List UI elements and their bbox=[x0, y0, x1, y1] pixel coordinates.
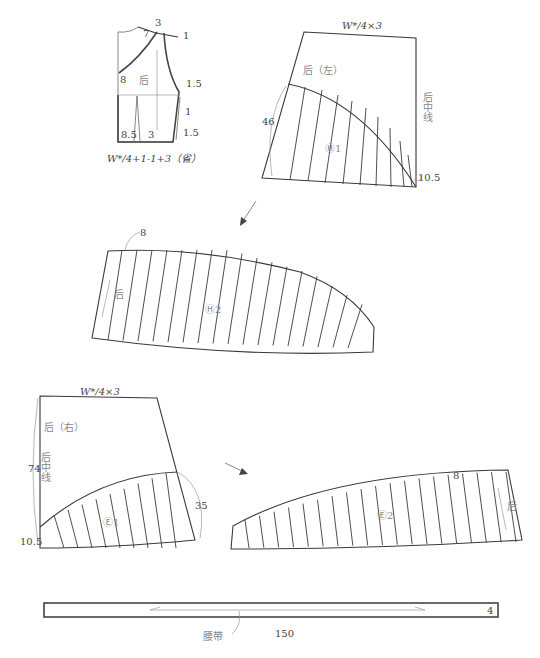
hatch-line bbox=[360, 108, 366, 185]
length-label: 150 bbox=[275, 628, 294, 639]
dim-label: 3 bbox=[155, 17, 161, 28]
hatch-line bbox=[390, 128, 391, 187]
hatch-line bbox=[152, 478, 162, 548]
hatch-line bbox=[448, 475, 457, 543]
hatch-line bbox=[477, 473, 486, 543]
hatch-line bbox=[343, 101, 352, 184]
hatch-line bbox=[138, 484, 148, 549]
arrow-icon bbox=[225, 463, 248, 475]
corner-label: 10.5 bbox=[418, 172, 440, 183]
hatch-line bbox=[153, 250, 167, 342]
top-label: 8 bbox=[140, 227, 146, 238]
hatch-line bbox=[168, 250, 182, 342]
hatch-line bbox=[198, 250, 212, 343]
grain-label: 后 bbox=[507, 501, 517, 512]
hatch-line bbox=[361, 489, 368, 545]
piece-e2: 8 后 Ⓔ2 bbox=[231, 470, 522, 549]
dim-label: 3 bbox=[148, 129, 154, 140]
piece-back-left: W*/4×3 后（左） 后中线 46 10.5 Ⓗ1 bbox=[262, 20, 440, 187]
hatch-line bbox=[166, 473, 176, 548]
formula-label: W*/4+1-1+3（省） bbox=[107, 153, 201, 164]
panel-label: 后 bbox=[139, 75, 149, 86]
waistband: 4 腰带 150 bbox=[44, 603, 498, 642]
hatch-line bbox=[348, 305, 362, 349]
hatch-line bbox=[376, 117, 378, 186]
dim-label: 8.5 bbox=[121, 129, 137, 140]
section-label: Ⓗ2 bbox=[205, 304, 221, 315]
hatch-line bbox=[434, 476, 442, 543]
side-label: 35 bbox=[195, 500, 208, 511]
hatch-line bbox=[289, 508, 294, 547]
top-label: 8 bbox=[453, 470, 459, 481]
hatch-line bbox=[290, 87, 305, 180]
dim-label: 1.5 bbox=[183, 127, 199, 138]
hatch-line bbox=[325, 95, 338, 183]
top-width-label: W*/4×3 bbox=[80, 386, 120, 397]
hatch-line bbox=[82, 505, 92, 549]
hatch-line bbox=[419, 478, 427, 544]
hatch-line bbox=[123, 250, 137, 341]
hatch-line bbox=[213, 250, 227, 344]
hatch-lines bbox=[54, 473, 176, 548]
pattern-diagram: 3 7 1 8 1.5 1 8.5 3 1.5 后 W*/4+1-1+3（省） … bbox=[0, 0, 540, 658]
hatch-line bbox=[243, 258, 257, 345]
panel-label: 后（左） bbox=[303, 64, 343, 76]
hatch-line bbox=[303, 276, 317, 346]
piece-back-right: W*/4×3 后（右） 后中线 74 10.5 35 Ⓔ1 bbox=[20, 386, 208, 548]
hatch-line bbox=[463, 474, 472, 543]
hatch-line bbox=[273, 267, 287, 346]
hatch-line bbox=[405, 481, 413, 545]
section-label: Ⓔ1 bbox=[103, 517, 119, 528]
center-line-label: 后中线 bbox=[40, 452, 51, 482]
hatch-line bbox=[347, 492, 353, 545]
width-label: 4 bbox=[487, 605, 493, 616]
dim-label: 8 bbox=[120, 74, 126, 85]
hatch-line bbox=[332, 496, 338, 546]
hatch-line bbox=[54, 515, 64, 548]
section-label: Ⓗ1 bbox=[325, 143, 341, 154]
corner-label: 10.5 bbox=[20, 536, 42, 547]
dim-label: 7 bbox=[143, 28, 149, 39]
dim-label: 1 bbox=[185, 106, 191, 117]
hatch-line bbox=[68, 510, 78, 548]
hatch-line bbox=[318, 286, 332, 347]
hatch-line bbox=[333, 295, 347, 347]
hatch-line bbox=[124, 489, 134, 548]
section-label: Ⓔ2 bbox=[377, 510, 393, 521]
hatch-line bbox=[288, 271, 302, 346]
top-width-label: W*/4×3 bbox=[342, 20, 382, 31]
hatch-line bbox=[308, 90, 322, 181]
hatch-line bbox=[258, 262, 272, 345]
arrow-icon bbox=[240, 201, 256, 226]
hatch-line bbox=[138, 250, 152, 341]
hatch-lines bbox=[108, 250, 362, 348]
piece-h2: 8 后 Ⓗ2 bbox=[92, 227, 374, 353]
side-length-label: 74 bbox=[28, 463, 41, 474]
dim-label: 1 bbox=[183, 30, 189, 41]
hatch-line bbox=[318, 500, 324, 547]
hatch-line bbox=[245, 520, 249, 548]
hatch-line bbox=[492, 472, 502, 542]
hatch-line bbox=[183, 250, 197, 343]
hatch-line bbox=[303, 504, 308, 547]
grain-label: 后 bbox=[114, 289, 124, 300]
center-line-label: 后中线 bbox=[422, 92, 433, 122]
waistband-name-label: 腰带 bbox=[203, 631, 223, 642]
hatch-line bbox=[260, 516, 264, 548]
hatch-line bbox=[274, 512, 279, 548]
bodice-sketch: 3 7 1 8 1.5 1 8.5 3 1.5 后 W*/4+1-1+3（省） bbox=[107, 17, 202, 164]
panel-label: 后（右） bbox=[44, 421, 84, 433]
hatch-line bbox=[408, 155, 412, 187]
hatch-line bbox=[228, 254, 242, 345]
side-length-label: 46 bbox=[262, 116, 275, 127]
hatch-lines bbox=[290, 87, 412, 187]
dim-label: 1.5 bbox=[186, 78, 202, 89]
